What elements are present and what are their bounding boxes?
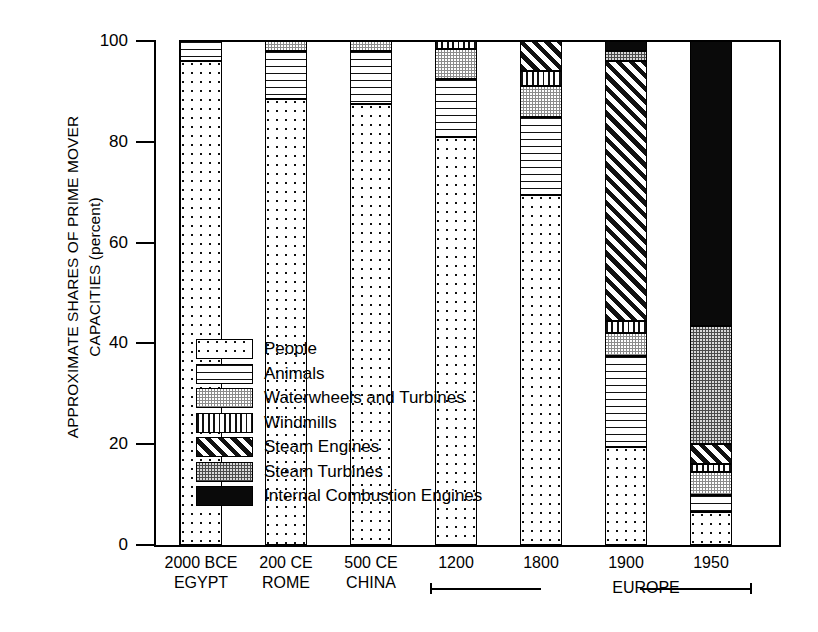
europe-rule-left-cap [430, 583, 432, 594]
legend-item-steam-turbines[interactable]: Steam Turbines [196, 460, 482, 485]
y-tick-60 [136, 242, 154, 244]
bar-segment-animals [520, 117, 562, 195]
bar-segment-animals [605, 356, 647, 447]
legend-label-steam-turbines: Steam Turbines [264, 463, 383, 481]
bar-segment-animals [265, 51, 307, 99]
chart-figure: APPROXIMATE SHARES OF PRIME MOVER CAPACI… [0, 0, 818, 632]
x-axis-line [154, 545, 781, 547]
bar-segment-people [520, 195, 562, 545]
bar-1900[interactable] [605, 41, 647, 545]
bar-segment-waterwheels-and-turbines [350, 41, 392, 51]
bar-segment-animals [350, 51, 392, 104]
y-tick-20 [136, 443, 154, 445]
legend-swatch-people-icon [196, 339, 253, 359]
bar-segment-internal-combustion-engines [605, 41, 647, 51]
y-tick-label-60: 60 [68, 234, 128, 251]
bar-segment-waterwheels-and-turbines [690, 472, 732, 495]
y-axis-tick-rail [154, 40, 156, 546]
legend-item-people[interactable]: People [196, 337, 482, 362]
bar-segment-waterwheels-and-turbines [520, 86, 562, 116]
bar-segment-animals [180, 41, 222, 61]
y-tick-label-40: 40 [68, 334, 128, 351]
europe-rule-left [430, 588, 541, 590]
legend-item-waterwheels[interactable]: Waterwheels and Turbines [196, 386, 482, 411]
y-tick-80 [136, 141, 154, 143]
legend-item-steam-engines[interactable]: Steam Engines [196, 435, 482, 460]
legend-label-waterwheels: Waterwheels and Turbines [264, 389, 465, 407]
europe-group-annotation: EUROPE [430, 578, 752, 598]
bar-segment-windmills [520, 71, 562, 86]
x-axis-label-1950: 1950 [651, 553, 771, 573]
y-tick-label-100: 100 [68, 32, 128, 49]
bar-segment-waterwheels-and-turbines [605, 333, 647, 356]
x-axis-label-line1: 1200 [438, 554, 474, 571]
bar-segment-windmills [690, 464, 732, 472]
legend-label-people: People [264, 340, 317, 358]
plot-right-border [779, 40, 781, 546]
x-axis-label-line1: 1950 [693, 554, 729, 571]
y-tick-0 [136, 544, 154, 546]
legend-swatch-waterwheels-icon [196, 388, 253, 408]
bar-segment-steam-engines [605, 61, 647, 321]
y-tick-40 [136, 342, 154, 344]
bar-segment-steam-turbines [605, 51, 647, 61]
legend: People Animals Waterwheels and Turbines … [196, 337, 482, 509]
bar-segment-people [690, 512, 732, 545]
x-axis-label-line1: 1800 [523, 554, 559, 571]
bar-segment-animals [690, 495, 732, 513]
legend-swatch-windmills-icon [196, 413, 253, 433]
bar-segment-windmills [605, 321, 647, 334]
bar-1950[interactable] [690, 41, 732, 545]
x-axis-label-line2: CHINA [311, 573, 431, 593]
legend-label-windmills: Windmills [264, 414, 337, 432]
y-axis-title-line1: APPROXIMATE SHARES OF PRIME MOVER [64, 116, 81, 439]
legend-swatch-animals-icon [196, 364, 253, 384]
x-axis-label-line1: 500 CE [344, 554, 397, 571]
legend-item-windmills[interactable]: Windmills [196, 411, 482, 436]
y-tick-label-0: 0 [68, 536, 128, 553]
x-axis-label-line1: 200 CE [259, 554, 312, 571]
legend-item-animals[interactable]: Animals [196, 362, 482, 387]
legend-label-internal-combustion: Internal Combustion Engines [264, 487, 482, 505]
bar-segment-steam-turbines [690, 326, 732, 444]
bar-segment-internal-combustion-engines [690, 41, 732, 326]
bar-segment-people [605, 447, 647, 545]
y-tick-label-80: 80 [68, 133, 128, 150]
legend-label-animals: Animals [264, 365, 324, 383]
legend-swatch-steam-turbines-icon [196, 462, 253, 482]
bar-segment-windmills [435, 41, 477, 49]
bar-segment-animals [435, 79, 477, 137]
y-tick-100 [136, 40, 154, 42]
x-axis-label-line1: 1900 [608, 554, 644, 571]
europe-label: EUROPE [541, 578, 751, 598]
legend-item-internal-combustion[interactable]: Internal Combustion Engines [196, 484, 482, 509]
bar-segment-steam-engines [520, 41, 562, 71]
legend-swatch-internal-combustion-icon [196, 486, 253, 506]
bar-segment-waterwheels-and-turbines [265, 41, 307, 51]
bar-segment-steam-engines [690, 444, 732, 464]
bar-segment-waterwheels-and-turbines [435, 49, 477, 79]
legend-swatch-steam-engines-icon [196, 437, 253, 457]
legend-label-steam-engines: Steam Engines [264, 438, 379, 456]
y-tick-label-20: 20 [68, 435, 128, 452]
bar-1800[interactable] [520, 41, 562, 545]
